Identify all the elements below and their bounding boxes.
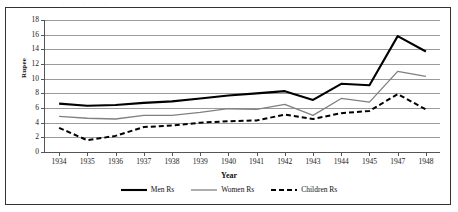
y-axis-title: Rupee <box>20 58 28 78</box>
series-line-men-rs <box>59 36 426 106</box>
y-axis-tick-label: 6 <box>35 104 39 112</box>
chart-legend: Men RsWomen RsChildren Rs <box>6 186 452 194</box>
y-axis-tick-label: 8 <box>35 90 39 98</box>
legend-swatch-icon <box>121 186 147 194</box>
x-axis-tick-label: 1948 <box>418 158 433 166</box>
y-axis-tick-label: 18 <box>32 16 40 24</box>
scan-artifact-strip: . . . . . . <box>0 0 458 7</box>
series-lines <box>45 20 345 170</box>
y-axis-tick-label: 2 <box>35 134 39 142</box>
legend-item-children-rs[interactable]: Children Rs <box>271 186 337 194</box>
legend-item-men-rs[interactable]: Men Rs <box>121 186 175 194</box>
x-axis-tick-label: 1945 <box>362 158 377 166</box>
x-axis-tick <box>426 152 427 156</box>
legend-item-women-rs[interactable]: Women Rs <box>191 186 254 194</box>
x-axis-tick <box>369 152 370 156</box>
legend-label: Women Rs <box>221 186 254 194</box>
x-axis-tick-label: 1947 <box>390 158 405 166</box>
legend-swatch-icon <box>191 186 217 194</box>
y-axis-tick-label: 16 <box>32 31 40 39</box>
legend-label: Men Rs <box>151 186 175 194</box>
x-axis-tick <box>398 152 399 156</box>
y-axis-tick-label: 14 <box>32 46 40 54</box>
y-axis-tick-label: 4 <box>35 119 39 127</box>
y-axis-tick-label: 10 <box>32 75 40 83</box>
legend-label: Children Rs <box>301 186 337 194</box>
y-axis-tick-label: 0 <box>35 148 39 156</box>
plot-area: 0246810121416181934193519361937193819391… <box>44 20 440 153</box>
y-axis-tick-label: 12 <box>32 60 40 68</box>
chart-figure-frame: Rupee 0246810121416181934193519361937193… <box>5 7 451 205</box>
x-axis-title: Year <box>6 171 452 180</box>
legend-swatch-icon <box>271 186 297 194</box>
